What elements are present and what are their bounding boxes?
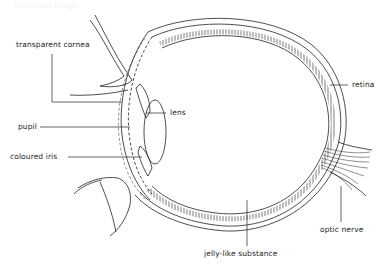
lower-eyelid xyxy=(78,177,131,236)
upper-eyelid xyxy=(90,15,132,87)
label-optic-nerve: optic nerve xyxy=(320,226,364,234)
retina-band xyxy=(148,32,333,219)
sclera-outer xyxy=(135,18,346,231)
label-retina: retina xyxy=(352,81,375,89)
label-jelly-like-substance: jelly-like substance xyxy=(204,250,277,258)
sclera-inner xyxy=(140,24,341,226)
eye-diagram: this visual image xyxy=(0,0,382,265)
cornea-leader xyxy=(52,54,122,102)
label-lens: lens xyxy=(170,109,186,117)
cornea-inner xyxy=(128,37,152,194)
label-transparent-cornea: transparent cornea xyxy=(16,41,90,49)
label-coloured-iris: coloured iris xyxy=(10,153,57,161)
lens xyxy=(144,100,166,164)
label-pupil: pupil xyxy=(18,123,37,131)
